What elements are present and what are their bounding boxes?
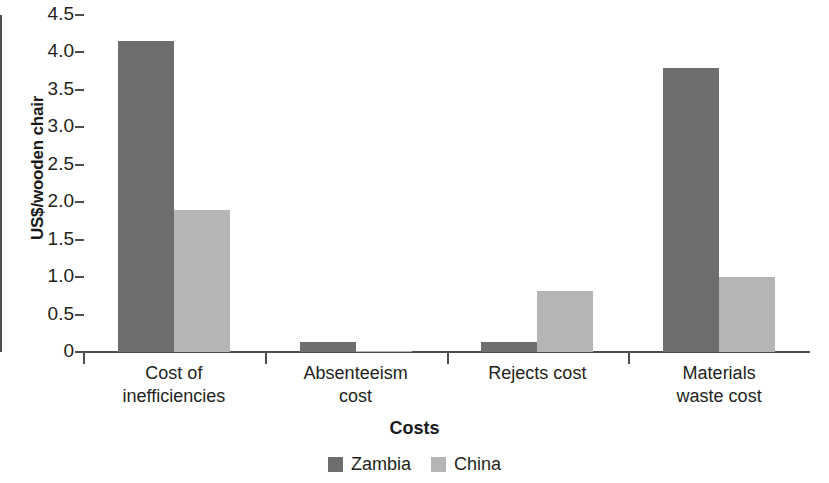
bar-china-3	[719, 277, 775, 352]
x-axis-category-label-line: Cost of	[83, 362, 265, 385]
x-axis-category-label: Materialswaste cost	[628, 362, 810, 408]
x-axis-title: Costs	[0, 418, 829, 439]
x-axis-category-label-line: waste cost	[628, 385, 810, 408]
legend-swatch-icon	[431, 457, 446, 472]
legend-swatch-icon	[328, 457, 343, 472]
bar-china-0	[174, 210, 230, 352]
plot-area	[0, 0, 829, 353]
bar-zambia-3	[663, 68, 719, 352]
legend-item-zambia[interactable]: Zambia	[328, 454, 411, 475]
x-axis-category-label: Rejects cost	[447, 362, 629, 385]
x-axis-category-label: Absenteeismcost	[265, 362, 447, 408]
legend: ZambiaChina	[0, 454, 829, 475]
legend-label: China	[454, 454, 501, 475]
x-axis-category-label-line: Rejects cost	[447, 362, 629, 385]
legend-label: Zambia	[351, 454, 411, 475]
bar-china-1	[356, 351, 412, 352]
bar-zambia-1	[300, 342, 356, 352]
x-axis-category-label-line: cost	[265, 385, 447, 408]
bar-zambia-0	[118, 41, 174, 352]
bar-china-2	[537, 291, 593, 352]
x-axis-category-label: Cost ofinefficiencies	[83, 362, 265, 408]
bar-chart: US$/wooden chair 00.51.01.52.02.53.03.54…	[0, 0, 829, 483]
x-axis-category-label-line: Absenteeism	[265, 362, 447, 385]
x-axis-category-label-line: Materials	[628, 362, 810, 385]
bar-zambia-2	[481, 342, 537, 352]
legend-item-china[interactable]: China	[431, 454, 501, 475]
x-axis-category-label-line: inefficiencies	[83, 385, 265, 408]
